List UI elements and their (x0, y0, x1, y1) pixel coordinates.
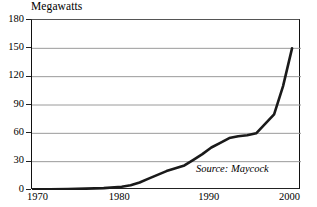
y-axis-tick-label: 120 (8, 70, 24, 81)
y-axis-tick-labels: 1801501209060300 (0, 19, 24, 189)
y-axis-tick: 90 (0, 99, 24, 110)
source-annotation: Source: Maycock (196, 163, 269, 175)
x-axis-tick-labels: 1970198019902000 (0, 190, 317, 206)
y-axis-tick: 180 (0, 14, 24, 25)
y-axis-tick-label: 30 (14, 155, 25, 166)
y-axis-tick-label: 90 (14, 99, 25, 110)
x-axis-tick-label: 1990 (198, 190, 219, 203)
gridlines (32, 48, 301, 161)
x-axis-tick-label: 1980 (109, 190, 130, 203)
y-axis-tick: 60 (0, 127, 24, 138)
x-axis-tick-label: 1970 (27, 190, 48, 203)
y-axis-unit-label: Megawatts (31, 0, 82, 13)
chart-figure: Megawatts 1801501209060300 1970198019902… (0, 0, 317, 207)
y-axis-tick: 30 (0, 155, 24, 166)
x-axis-tick-label: 2000 (279, 190, 300, 203)
y-axis-tick-label: 180 (8, 14, 24, 25)
y-axis-tick: 150 (0, 42, 24, 53)
y-axis-tick-label: 150 (8, 42, 24, 53)
y-axis-tick-label: 60 (14, 127, 25, 138)
y-axis-tick: 120 (0, 70, 24, 81)
